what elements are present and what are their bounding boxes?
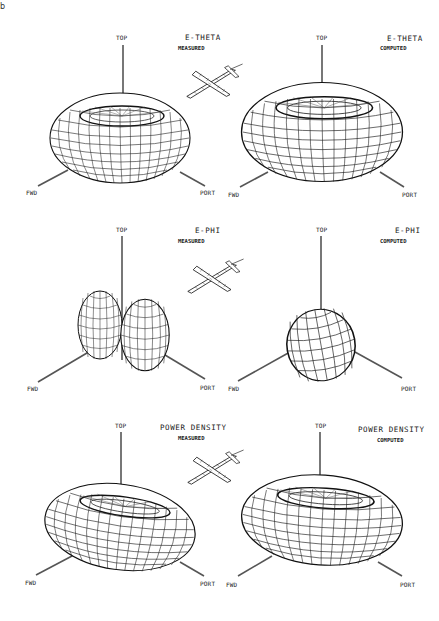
port-axis-label: PORT: [400, 582, 415, 588]
power-computed-pattern: [239, 469, 406, 570]
fwd-axis-label: FWD: [228, 386, 239, 392]
etheta-measured-pattern: [50, 93, 190, 183]
top-axis-label: TOP: [316, 35, 327, 41]
panel-etheta-measured: [38, 45, 205, 186]
fwd-axis: [38, 350, 92, 382]
port-axis-label: PORT: [402, 192, 417, 198]
top-axis-label: TOP: [315, 423, 326, 429]
panel-title: E-PHI: [195, 227, 221, 235]
panel-title: E-THETA: [185, 34, 221, 42]
fwd-axis-label: FWD: [226, 582, 237, 588]
panel-subtitle: MEASURED: [178, 239, 205, 245]
power-measured-pattern: [39, 474, 201, 580]
panel-etheta-computed: [240, 45, 404, 187]
panel-subtitle: COMPUTED: [380, 239, 407, 245]
top-axis-label: TOP: [115, 423, 126, 429]
panel-title: POWER DENSITY: [358, 426, 425, 434]
port-axis: [355, 352, 402, 378]
etheta-computed-pattern: [242, 83, 403, 182]
port-axis: [380, 172, 404, 187]
port-axis: [180, 562, 204, 576]
aircraft-icon: [187, 64, 243, 98]
ephi-measured-lobe-left: [78, 291, 122, 359]
fwd-axis: [38, 170, 68, 186]
port-axis-label: PORT: [200, 190, 215, 196]
port-axis: [165, 355, 205, 379]
aircraft-icon: [188, 450, 244, 484]
fwd-axis: [36, 556, 72, 575]
panel-ephi-computed: [238, 236, 402, 386]
top-axis-label: TOP: [316, 227, 327, 233]
radiation-pattern-figure: [0, 0, 439, 621]
fwd-axis-label: FWD: [27, 386, 38, 392]
panel-title: E-PHI: [395, 227, 421, 235]
panel-power-computed: [238, 432, 405, 576]
panel-title: POWER DENSITY: [160, 424, 227, 432]
fwd-axis-label: FWD: [25, 580, 36, 586]
ephi-measured-lobe-right: [121, 299, 169, 370]
ephi-computed-lobe: [281, 304, 361, 386]
port-axis: [378, 562, 402, 576]
panel-subtitle: MEASURED: [178, 46, 205, 52]
fwd-axis: [240, 172, 268, 187]
fwd-axis-label: FWD: [26, 190, 37, 196]
panel-subtitle: COMPUTED: [380, 46, 407, 52]
port-axis-label: PORT: [401, 386, 416, 392]
panel-subtitle: MEASURED: [178, 436, 205, 442]
port-axis: [180, 172, 205, 186]
aircraft-icon: [188, 259, 244, 293]
panel-ephi-measured: [38, 236, 205, 382]
fwd-axis: [238, 352, 290, 381]
panel-subtitle: COMPUTED: [377, 438, 404, 444]
fwd-axis: [238, 556, 272, 576]
panel-power-measured: [36, 432, 204, 580]
top-axis-label: TOP: [116, 35, 127, 41]
top-axis-label: TOP: [116, 227, 127, 233]
port-axis-label: PORT: [200, 581, 215, 587]
fwd-axis-label: FWD: [228, 192, 239, 198]
panel-title: E-THETA: [387, 35, 423, 43]
port-axis-label: PORT: [200, 385, 215, 391]
